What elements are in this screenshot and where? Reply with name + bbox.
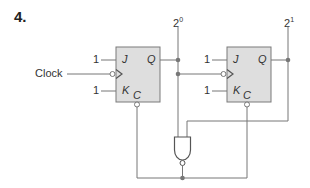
junction-dot: [176, 72, 181, 77]
ff2-clock-bubble-icon: [221, 72, 226, 77]
ff1-c-pin: C: [133, 90, 141, 101]
ff2-j-input-value: 1: [204, 54, 210, 65]
junction-dot: [286, 58, 291, 63]
junction-dot: [180, 176, 185, 181]
ff2-c-pin: C: [243, 90, 251, 101]
nand-output-bubble-icon: [180, 161, 185, 166]
clear-bus: [137, 107, 247, 178]
nand-gate-icon: [175, 137, 191, 160]
clock-label: Clock: [35, 68, 63, 79]
ff1-clock-bubble-icon: [110, 72, 115, 77]
bit0-exp: 0: [179, 16, 183, 23]
ff1-k-input-value: 1: [93, 85, 99, 96]
ff2-j-pin: J: [233, 54, 239, 65]
ff2-k-input-value: 1: [204, 85, 210, 96]
bit0-output-label: 20: [173, 16, 183, 29]
ff1-k-pin: K: [122, 85, 129, 96]
ff1-j-input-value: 1: [93, 54, 99, 65]
problem-number: 4.: [14, 9, 27, 24]
ff2-k-pin: K: [233, 85, 240, 96]
ff2-clear-bubble-icon: [245, 102, 250, 107]
bit1-exp: 1: [290, 16, 294, 23]
ff1-q-pin: Q: [147, 54, 156, 65]
ff1-j-pin: J: [122, 54, 128, 65]
circuit-wires: [0, 0, 310, 188]
counter-diagram: 4. Clock 1 1 J Q K C 1 1 J Q K C 20 21: [0, 0, 310, 188]
bit1-output-label: 21: [284, 16, 294, 29]
ff2-q-pin: Q: [258, 54, 267, 65]
junction-dot: [176, 58, 181, 63]
ff1-clear-bubble-icon: [135, 102, 140, 107]
